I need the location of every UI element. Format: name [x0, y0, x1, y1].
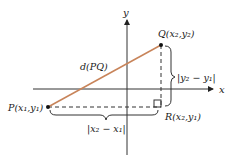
- distance-label: d(PQ): [80, 61, 108, 72]
- point-p-label: P(x₁,y₁): [7, 102, 43, 113]
- segment-pq: [48, 45, 161, 107]
- point-q: [159, 43, 163, 47]
- vertical-brace: [165, 46, 175, 106]
- x-axis-label: x: [219, 84, 225, 95]
- point-p: [46, 105, 50, 109]
- distance-diagram: x y P(x₁,y₁) Q(x₂,y₂) R(x₂,y₁) d(PQ) |x₂…: [0, 0, 237, 163]
- horizontal-brace: [50, 110, 158, 120]
- point-r-label: R(x₂,y₁): [164, 111, 201, 122]
- vertical-distance-label: |y₂ − y₁|: [177, 72, 216, 84]
- horizontal-distance-label: |x₂ − x₁|: [87, 123, 126, 135]
- point-q-label: Q(x₂,y₂): [158, 28, 195, 39]
- y-axis-label: y: [122, 7, 129, 18]
- right-angle-marker: [154, 100, 161, 107]
